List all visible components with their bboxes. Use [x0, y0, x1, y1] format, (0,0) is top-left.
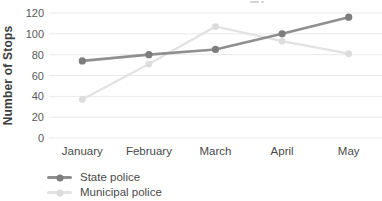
plot-area [49, 13, 382, 138]
x-tick-label-march: March [200, 145, 232, 157]
data-point-state-police-may [345, 14, 352, 21]
legend-marker-icon-municipal-police [47, 188, 72, 197]
data-point-municipal-police-may [345, 50, 352, 57]
data-point-state-police-february [145, 51, 152, 58]
legend-label-state-police: State police [80, 170, 140, 185]
data-point-state-police-january [79, 57, 86, 64]
data-point-state-police-march [212, 46, 219, 53]
x-tick-label-january: January [62, 145, 103, 157]
series-line-municipal-police [82, 27, 348, 100]
x-tick-label-february: February [126, 145, 172, 157]
x-tick-label-april: April [271, 145, 294, 157]
legend-label-municipal-police: Municipal police [80, 185, 162, 200]
data-point-municipal-police-april [279, 38, 286, 45]
y-axis-title: Number of Stops [1, 13, 16, 138]
cropped-title-fragment [250, 1, 264, 4]
x-tick-label-may: May [338, 145, 360, 157]
legend: State policeMunicipal police [47, 170, 162, 200]
data-point-municipal-police-january [79, 96, 86, 103]
legend-marker-icon-state-police [47, 173, 72, 182]
data-point-state-police-april [279, 30, 286, 37]
data-point-municipal-police-march [212, 23, 219, 30]
plot-svg [49, 13, 382, 138]
legend-item-state-police: State police [47, 170, 162, 185]
legend-item-municipal-police: Municipal police [47, 185, 162, 200]
data-point-municipal-police-february [146, 61, 153, 68]
line-chart: Number of Stops 020406080100120 JanuaryF… [0, 0, 382, 201]
